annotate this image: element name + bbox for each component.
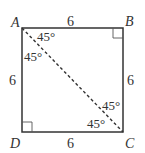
angle-label-c-bottom: 45° bbox=[87, 116, 105, 131]
side-label-bc: 6 bbox=[127, 73, 134, 88]
right-angle-marker-d bbox=[22, 122, 32, 132]
vertex-label-d: D bbox=[9, 136, 20, 151]
angle-label-a-left: 45° bbox=[24, 49, 42, 64]
vertex-label-b: B bbox=[125, 14, 134, 29]
side-label-ab: 6 bbox=[67, 14, 74, 29]
angle-label-c-right: 45° bbox=[102, 98, 120, 113]
right-angle-marker-b bbox=[113, 28, 123, 38]
side-label-da: 6 bbox=[9, 73, 16, 88]
angle-label-a-top: 45° bbox=[37, 29, 55, 44]
square-diagram: A B C D 6 6 6 6 45° 45° 45° 45° bbox=[0, 0, 145, 153]
side-label-cd: 6 bbox=[67, 136, 74, 151]
vertex-label-a: A bbox=[10, 15, 20, 30]
vertex-label-c: C bbox=[125, 136, 135, 151]
